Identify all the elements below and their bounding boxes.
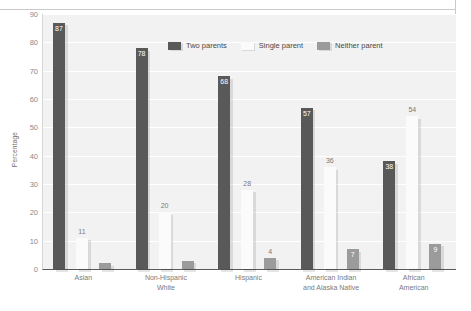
legend-label: Neither parent: [335, 41, 383, 50]
x-axis-label-line: Hispanic: [207, 273, 290, 283]
legend-label: Two parents: [186, 41, 227, 50]
x-axis-label: Non-HispanicWhite: [125, 273, 208, 292]
bar-slot: 54: [406, 14, 418, 269]
bar-value-label: 57: [301, 110, 313, 117]
x-axis-label: American Indianand Alaska Native: [290, 273, 373, 292]
bar[interactable]: 36: [324, 167, 336, 269]
legend-swatch-fill: [241, 42, 254, 50]
bar-slot: 7: [347, 14, 359, 269]
bar-slot: 87: [53, 14, 65, 269]
bar-fill: [264, 258, 276, 269]
bar[interactable]: 78: [136, 48, 148, 269]
x-axis-label-line: American: [372, 283, 455, 293]
y-axis-tick: 30: [14, 180, 38, 189]
y-axis-tick: 80: [14, 38, 38, 47]
x-axis-label-line: African: [372, 273, 455, 283]
bar[interactable]: 28: [241, 190, 253, 269]
bar-value-label: 4: [264, 248, 276, 255]
y-axis-tick: 20: [14, 208, 38, 217]
x-axis-label-line: Asian: [42, 273, 125, 283]
bar-fill: [406, 116, 418, 269]
bar-value-label: 36: [324, 157, 336, 164]
bar-groups: 87117820682845736738549: [43, 14, 456, 269]
bar[interactable]: 7: [347, 249, 359, 269]
bar-value-label: 38: [383, 163, 395, 170]
bar-value-label: 7: [347, 251, 359, 258]
plot-area: 87117820682845736738549: [42, 14, 456, 270]
y-axis-tick: 50: [14, 123, 38, 132]
bar[interactable]: [182, 261, 194, 270]
bar-value-label: 28: [241, 180, 253, 187]
chart-legend: Two parentsSingle parentNeither parent: [168, 41, 397, 50]
y-axis-tick: 0: [14, 265, 38, 274]
bar-group: 38549: [373, 14, 456, 269]
bar[interactable]: 4: [264, 258, 276, 269]
top-divider-rule: [0, 9, 455, 10]
y-axis-tick: 70: [14, 66, 38, 75]
y-axis-tick: 60: [14, 95, 38, 104]
bar-fill: [301, 108, 313, 270]
bar-slot: 57: [301, 14, 313, 269]
bar-fill: [53, 23, 65, 270]
bar-group: 68284: [208, 14, 291, 269]
bar-slot: 78: [136, 14, 148, 269]
x-axis-label: Asian: [42, 273, 125, 292]
bar[interactable]: 57: [301, 108, 313, 270]
bar-fill: [136, 48, 148, 269]
bar-slot: [182, 14, 194, 269]
bar-slot: 4: [264, 14, 276, 269]
bar-group: 57367: [291, 14, 374, 269]
y-axis-tick: 40: [14, 151, 38, 160]
x-axis-label-line: White: [125, 283, 208, 293]
bar-slot: 11: [76, 14, 88, 269]
x-axis-label-line: Non-Hispanic: [125, 273, 208, 283]
bar-slot: 28: [241, 14, 253, 269]
bar[interactable]: 9: [429, 244, 441, 270]
x-axis-label-line: and Alaska Native: [290, 283, 373, 293]
y-axis-tick: 10: [14, 236, 38, 245]
bar[interactable]: [99, 263, 111, 269]
bar-slot: 9: [429, 14, 441, 269]
bar[interactable]: 54: [406, 116, 418, 269]
legend-swatch: [317, 42, 330, 50]
bar-fill: [182, 261, 194, 270]
legend-item[interactable]: Two parents: [168, 41, 227, 50]
bar[interactable]: 11: [76, 238, 88, 269]
bar-value-label: 54: [406, 106, 418, 113]
bar-fill: [383, 161, 395, 269]
bar-value-label: 68: [218, 78, 230, 85]
bar-slot: 36: [324, 14, 336, 269]
y-axis-tick: 90: [14, 10, 38, 19]
x-axis-category-labels: AsianNon-HispanicWhiteHispanicAmerican I…: [42, 273, 455, 292]
bar-fill: [241, 190, 253, 269]
bar-fill: [76, 238, 88, 269]
bar[interactable]: 68: [218, 76, 230, 269]
legend-item[interactable]: Single parent: [241, 41, 303, 50]
bar-fill: [218, 76, 230, 269]
bar-chart-figure: Percentage 9080706050403020100 871178206…: [0, 14, 471, 311]
legend-swatch-fill: [317, 42, 330, 50]
bar-fill: [159, 212, 171, 269]
bar-slot: 68: [218, 14, 230, 269]
bar-value-label: 87: [53, 25, 65, 32]
bar-value-label: 78: [136, 50, 148, 57]
bar[interactable]: 87: [53, 23, 65, 270]
bar-group: 7820: [126, 14, 209, 269]
bar-slot: 38: [383, 14, 395, 269]
bar-fill: [324, 167, 336, 269]
legend-swatch: [241, 42, 254, 50]
bar-value-label: 9: [429, 246, 441, 253]
x-axis-label: Hispanic: [207, 273, 290, 292]
bar[interactable]: 20: [159, 212, 171, 269]
bar-slot: [99, 14, 111, 269]
legend-swatch-fill: [168, 42, 181, 50]
bar-slot: 20: [159, 14, 171, 269]
bar-value-label: 20: [159, 202, 171, 209]
x-axis-label-line: American Indian: [290, 273, 373, 283]
y-axis-tick-labels: 9080706050403020100: [14, 14, 38, 269]
bar-fill: [99, 263, 111, 269]
legend-item[interactable]: Neither parent: [317, 41, 383, 50]
bar[interactable]: 38: [383, 161, 395, 269]
bar-value-label: 11: [76, 228, 88, 235]
x-axis-label: AfricanAmerican: [372, 273, 455, 292]
